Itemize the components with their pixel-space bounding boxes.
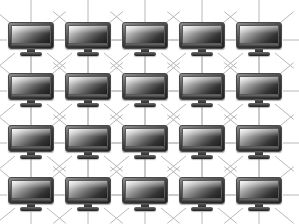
network-node-node-r3-c5[interactable] bbox=[236, 125, 282, 161]
monitor-screen-glare bbox=[183, 181, 221, 188]
monitor-chin bbox=[68, 147, 108, 150]
monitor-screen-glare bbox=[183, 129, 221, 136]
computer-monitor-icon bbox=[65, 73, 111, 109]
computer-monitor-icon bbox=[65, 125, 111, 161]
monitor-bezel bbox=[65, 22, 111, 49]
network-node-node-r1-c4[interactable] bbox=[179, 22, 225, 58]
monitor-screen-glare bbox=[240, 77, 278, 84]
computer-monitor-icon bbox=[8, 73, 54, 109]
monitor-stand-base bbox=[20, 103, 42, 107]
monitor-bezel bbox=[8, 125, 54, 152]
monitor-screen-frame bbox=[125, 128, 165, 147]
network-node-node-r2-c3[interactable] bbox=[122, 73, 168, 109]
monitor-bezel bbox=[236, 22, 282, 49]
monitor-screen-frame bbox=[125, 180, 165, 199]
monitor-stand-base bbox=[134, 103, 156, 107]
monitor-screen-frame bbox=[182, 76, 222, 95]
monitor-bezel bbox=[236, 125, 282, 152]
network-node-node-r2-c2[interactable] bbox=[65, 73, 111, 109]
monitor-screen-frame bbox=[11, 25, 51, 44]
network-node-node-r1-c3[interactable] bbox=[122, 22, 168, 58]
monitor-screen-frame bbox=[239, 76, 279, 95]
monitor-screen-glare bbox=[12, 77, 50, 84]
network-node-node-r3-c1[interactable] bbox=[8, 125, 54, 161]
network-node-node-r4-c2[interactable] bbox=[65, 177, 111, 213]
monitor-chin bbox=[182, 199, 222, 202]
monitor-bezel bbox=[8, 22, 54, 49]
monitor-screen-glare bbox=[240, 26, 278, 33]
monitor-screen-glare bbox=[126, 181, 164, 188]
monitor-chin bbox=[68, 44, 108, 47]
monitor-screen-frame bbox=[239, 25, 279, 44]
computer-monitor-icon bbox=[122, 22, 168, 58]
monitor-stand-base bbox=[191, 52, 213, 56]
network-node-node-r4-c4[interactable] bbox=[179, 177, 225, 213]
computer-monitor-icon bbox=[236, 177, 282, 213]
computer-monitor-icon bbox=[236, 22, 282, 58]
network-node-node-r1-c5[interactable] bbox=[236, 22, 282, 58]
monitor-chin bbox=[68, 95, 108, 98]
monitor-screen-frame bbox=[68, 128, 108, 147]
monitor-chin bbox=[125, 147, 165, 150]
monitor-chin bbox=[68, 199, 108, 202]
monitor-screen-glare bbox=[12, 129, 50, 136]
monitor-screen-glare bbox=[126, 77, 164, 84]
monitor-stand-base bbox=[134, 207, 156, 211]
monitor-screen-glare bbox=[12, 26, 50, 33]
network-node-node-r2-c5[interactable] bbox=[236, 73, 282, 109]
computer-monitor-icon bbox=[65, 22, 111, 58]
monitor-bezel bbox=[179, 73, 225, 100]
monitor-chin bbox=[125, 199, 165, 202]
monitor-screen-frame bbox=[68, 180, 108, 199]
network-diagram bbox=[0, 0, 299, 224]
monitor-stand-base bbox=[248, 155, 270, 159]
network-node-node-r1-c1[interactable] bbox=[8, 22, 54, 58]
monitor-screen-glare bbox=[183, 77, 221, 84]
monitor-bezel bbox=[65, 177, 111, 204]
monitor-chin bbox=[11, 95, 51, 98]
computer-monitor-icon bbox=[8, 125, 54, 161]
network-node-node-r1-c2[interactable] bbox=[65, 22, 111, 58]
monitor-chin bbox=[239, 199, 279, 202]
monitor-screen-frame bbox=[182, 180, 222, 199]
network-node-node-r4-c1[interactable] bbox=[8, 177, 54, 213]
network-node-node-r3-c3[interactable] bbox=[122, 125, 168, 161]
network-node-node-r4-c3[interactable] bbox=[122, 177, 168, 213]
monitor-screen-frame bbox=[239, 128, 279, 147]
monitor-chin bbox=[239, 44, 279, 47]
monitor-screen-glare bbox=[183, 26, 221, 33]
monitor-screen-glare bbox=[69, 77, 107, 84]
monitor-screen-frame bbox=[182, 128, 222, 147]
network-node-node-r2-c1[interactable] bbox=[8, 73, 54, 109]
node-layer bbox=[0, 0, 299, 224]
monitor-bezel bbox=[122, 125, 168, 152]
computer-monitor-icon bbox=[179, 22, 225, 58]
monitor-screen-glare bbox=[126, 129, 164, 136]
monitor-chin bbox=[125, 95, 165, 98]
network-node-node-r4-c5[interactable] bbox=[236, 177, 282, 213]
monitor-chin bbox=[182, 147, 222, 150]
monitor-stand-base bbox=[191, 207, 213, 211]
computer-monitor-icon bbox=[179, 73, 225, 109]
network-node-node-r3-c2[interactable] bbox=[65, 125, 111, 161]
monitor-stand-base bbox=[20, 207, 42, 211]
monitor-screen-frame bbox=[11, 128, 51, 147]
monitor-screen-glare bbox=[12, 181, 50, 188]
monitor-screen-glare bbox=[69, 26, 107, 33]
monitor-stand-base bbox=[20, 52, 42, 56]
monitor-bezel bbox=[65, 73, 111, 100]
monitor-chin bbox=[11, 199, 51, 202]
computer-monitor-icon bbox=[65, 177, 111, 213]
computer-monitor-icon bbox=[122, 177, 168, 213]
computer-monitor-icon bbox=[236, 125, 282, 161]
monitor-stand-base bbox=[77, 155, 99, 159]
network-node-node-r2-c4[interactable] bbox=[179, 73, 225, 109]
monitor-chin bbox=[11, 44, 51, 47]
monitor-stand-base bbox=[248, 103, 270, 107]
monitor-stand-base bbox=[191, 155, 213, 159]
monitor-chin bbox=[11, 147, 51, 150]
computer-monitor-icon bbox=[179, 177, 225, 213]
monitor-bezel bbox=[8, 177, 54, 204]
monitor-bezel bbox=[179, 22, 225, 49]
network-node-node-r3-c4[interactable] bbox=[179, 125, 225, 161]
